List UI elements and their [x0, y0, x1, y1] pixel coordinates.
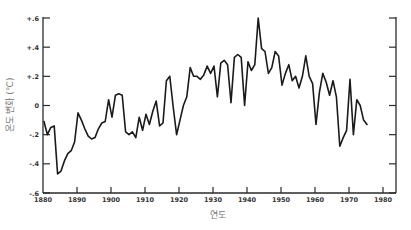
x-tick-label: 1900	[102, 196, 121, 204]
x-tick-label: 1910	[136, 196, 155, 204]
chart-axes	[43, 17, 396, 193]
y-axis-title: 온도 변화 (℃)	[5, 78, 15, 133]
x-tick-label: 1880	[34, 196, 53, 204]
x-tick-label: 1890	[68, 196, 87, 204]
x-tick-label: 1940	[238, 196, 257, 204]
x-tick-label: 1960	[306, 196, 325, 204]
y-tick-label: +.4	[27, 44, 40, 52]
temperature-chart: +.6+.4+.20-.2-.4-.6 18801890190019101920…	[0, 0, 411, 230]
x-tick-label: 1970	[340, 196, 359, 204]
y-tick-label: +.6	[27, 15, 40, 23]
x-tick-label: 1980	[374, 196, 393, 204]
x-tick-label: 1930	[204, 196, 223, 204]
y-ticks: +.6+.4+.20-.2-.4-.6	[27, 15, 396, 198]
x-tick-label: 1920	[170, 196, 189, 204]
y-tick-label: -.2	[29, 131, 39, 139]
x-axis-title: 연도	[210, 210, 226, 220]
y-tick-label: 0	[34, 102, 39, 110]
x-tick-label: 1950	[272, 196, 291, 204]
temperature-anomaly-line	[44, 18, 367, 174]
y-tick-label: +.2	[27, 73, 39, 81]
x-ticks: 1880189019001910192019301940195019601970…	[34, 187, 393, 204]
y-tick-label: -.4	[29, 160, 39, 168]
